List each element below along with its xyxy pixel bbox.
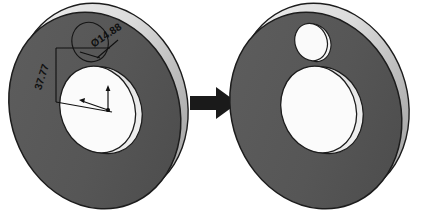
after-model-view[interactable]	[213, 0, 426, 216]
after-washer-svg	[213, 0, 426, 216]
before-model-view[interactable]: Ø14.88 37.77	[0, 0, 213, 216]
before-washer-svg: Ø14.88 37.77	[0, 0, 213, 216]
cad-comparison-scene: Ø14.88 37.77	[0, 0, 426, 216]
